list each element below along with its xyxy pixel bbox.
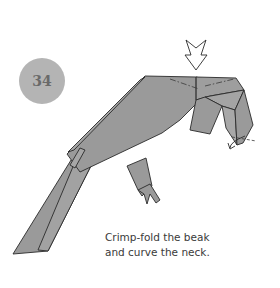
caption-line-1: Crimp-fold the beak — [105, 230, 275, 245]
instruction-caption: Crimp-fold the beak and curve the neck. — [105, 230, 275, 260]
push-arrow-icon — [185, 40, 207, 70]
caption-line-2: and curve the neck. — [105, 245, 275, 260]
